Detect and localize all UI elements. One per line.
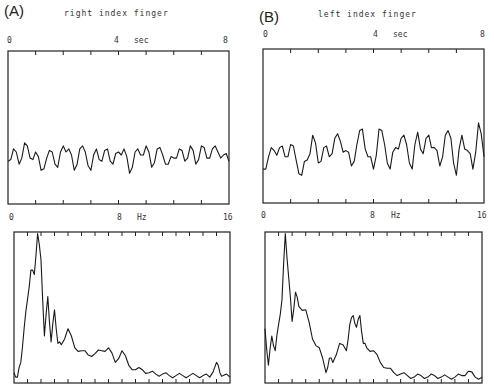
- plot-frame: [263, 49, 484, 203]
- data-trace: [265, 234, 482, 380]
- panel-a-spectrum-plot: [14, 232, 230, 383]
- plot-frame: [265, 232, 482, 383]
- data-trace: [263, 123, 484, 175]
- panel-a-time-plot: [8, 51, 229, 204]
- panel-b-time-plot: [263, 49, 484, 203]
- plot-frame: [8, 51, 229, 204]
- data-trace: [8, 143, 229, 174]
- data-trace: [14, 234, 230, 378]
- panel-b-spectrum-plot: [265, 232, 482, 383]
- figure-canvas: [0, 0, 494, 392]
